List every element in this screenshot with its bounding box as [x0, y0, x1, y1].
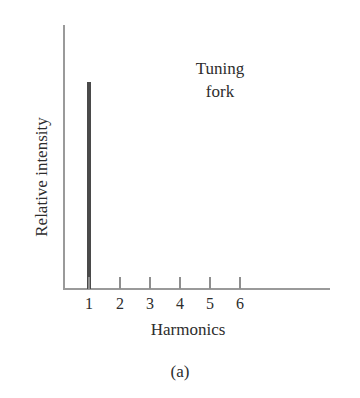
x-axis-tick-1	[88, 277, 90, 289]
bar-harmonic-1	[87, 82, 91, 289]
x-axis-tick-label-1: 1	[76, 294, 102, 314]
x-axis-line	[63, 288, 330, 290]
series-annotation-line-2: fork	[160, 80, 280, 103]
x-axis-tick-6	[239, 277, 241, 289]
x-axis-tick-5	[209, 277, 211, 289]
series-annotation-tuning-fork: Tuning fork	[160, 57, 280, 103]
panel-caption: (a)	[130, 362, 230, 382]
y-axis-line	[63, 25, 65, 290]
x-axis-tick-label-5: 5	[197, 294, 223, 314]
x-axis-tick-label-3: 3	[137, 294, 163, 314]
plot-area: 1 2 3 4 5 6 Harmonics Relative intensity…	[0, 0, 360, 398]
x-axis-tick-label-4: 4	[167, 294, 193, 314]
x-axis-tick-3	[149, 277, 151, 289]
x-axis-tick-label-2: 2	[107, 294, 133, 314]
tuning-fork-harmonic-spectrum-figure: 1 2 3 4 5 6 Harmonics Relative intensity…	[0, 0, 360, 398]
x-axis-tick-label-6: 6	[227, 294, 253, 314]
x-axis-label: Harmonics	[63, 320, 313, 340]
y-axis-label: Relative intensity	[32, 82, 52, 272]
series-annotation-line-1: Tuning	[160, 57, 280, 80]
x-axis-tick-2	[119, 277, 121, 289]
x-axis-tick-4	[179, 277, 181, 289]
